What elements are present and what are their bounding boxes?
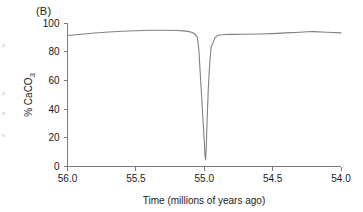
scan-artifact (2, 92, 5, 95)
y-tick-label: 60 (48, 75, 60, 86)
y-axis-ticks: 020406080100 (43, 18, 68, 173)
y-tick-label: 80 (48, 46, 60, 57)
y-tick-label: 100 (43, 18, 60, 29)
x-tick-label: 56.0 (58, 173, 78, 184)
panel-label: (B) (36, 5, 51, 17)
data-series-caco3 (68, 30, 342, 159)
x-tick-label: 55.0 (195, 173, 215, 184)
caco3-line-chart: 020406080100 56.055.555.054.554.0 % CaCO… (0, 0, 363, 212)
scan-artifact (2, 44, 5, 47)
scan-artifact (2, 112, 5, 115)
x-tick-label: 55.5 (126, 173, 146, 184)
y-tick-label: 0 (54, 161, 60, 172)
figure-panel-b: (B) 020406080100 56.055.555.054.554.0 % … (0, 0, 363, 212)
x-tick-label: 54.0 (331, 173, 351, 184)
y-tick-label: 20 (48, 132, 60, 143)
x-tick-label: 54.5 (263, 173, 283, 184)
y-axis-title: % CaCO3 (23, 73, 37, 117)
y-tick-label: 40 (48, 104, 60, 115)
x-axis-title: Time (millions of years ago) (143, 195, 265, 206)
scan-artifact (2, 134, 5, 137)
svg-text:% CaCO3: % CaCO3 (23, 73, 37, 117)
x-axis-ticks: 56.055.555.054.554.0 (58, 167, 351, 184)
